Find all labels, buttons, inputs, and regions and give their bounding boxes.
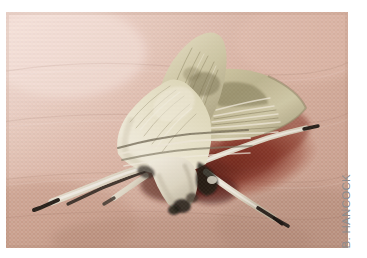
moth-photo-illustration [6, 12, 348, 248]
figure-photograph: B. HANCOCK [0, 0, 367, 258]
moth-photograph [6, 12, 348, 248]
photo-credit-text: B. HANCOCK [341, 173, 353, 248]
